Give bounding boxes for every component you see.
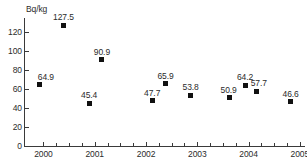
data-point-label: 90.9 xyxy=(84,47,120,57)
x-minor-tick-mark xyxy=(184,143,185,146)
data-point-label: 53.8 xyxy=(173,82,209,92)
data-point-marker xyxy=(163,81,168,86)
x-minor-tick-mark xyxy=(133,143,134,146)
x-tick-label: 2005 xyxy=(280,149,307,159)
data-point-marker xyxy=(188,93,193,98)
x-tick-mark xyxy=(249,142,250,146)
data-point-label: 64.9 xyxy=(28,72,64,82)
x-minor-tick-mark xyxy=(69,143,70,146)
x-minor-tick-mark xyxy=(159,143,160,146)
x-axis-line xyxy=(24,146,305,147)
x-minor-tick-mark xyxy=(108,143,109,146)
y-tick-label: 0 xyxy=(17,141,22,151)
data-point-marker xyxy=(99,57,104,62)
x-tick-label: 2004 xyxy=(229,149,269,159)
y-tick-mark xyxy=(25,89,29,90)
y-tick-mark xyxy=(25,127,29,128)
x-tick-label: 2001 xyxy=(75,149,115,159)
x-minor-tick-mark xyxy=(82,143,83,146)
x-tick-mark xyxy=(197,142,198,146)
y-tick-label: 20 xyxy=(13,122,22,132)
y-tick-label: 80 xyxy=(13,65,22,75)
x-minor-tick-mark xyxy=(56,143,57,146)
y-tick-label: 60 xyxy=(13,84,22,94)
x-tick-mark xyxy=(95,142,96,146)
data-point-marker xyxy=(150,98,155,103)
x-minor-tick-mark xyxy=(120,143,121,146)
data-point-label: 127.5 xyxy=(45,12,81,22)
y-tick-mark xyxy=(25,108,29,109)
x-tick-mark xyxy=(146,142,147,146)
x-minor-tick-mark xyxy=(236,143,237,146)
x-tick-mark xyxy=(43,142,44,146)
scatter-chart: Bq/kg 020406080100120 200020012002200320… xyxy=(0,0,307,165)
x-minor-tick-mark xyxy=(261,143,262,146)
x-minor-tick-mark xyxy=(210,143,211,146)
data-point-marker xyxy=(227,95,232,100)
data-point-label: 46.6 xyxy=(273,89,307,99)
y-tick-label: 120 xyxy=(8,27,22,37)
y-tick-label: 100 xyxy=(8,46,22,56)
y-axis-title: Bq/kg xyxy=(26,4,47,14)
x-minor-tick-mark xyxy=(223,143,224,146)
y-tick-label: 40 xyxy=(13,103,22,113)
x-minor-tick-mark xyxy=(287,143,288,146)
x-minor-tick-mark xyxy=(274,143,275,146)
data-point-label: 45.4 xyxy=(71,90,107,100)
data-point-marker xyxy=(288,99,293,104)
y-tick-mark xyxy=(25,32,29,33)
y-tick-mark xyxy=(25,146,29,147)
x-tick-label: 2002 xyxy=(126,149,166,159)
data-point-label: 65.9 xyxy=(148,71,184,81)
data-point-marker xyxy=(254,89,259,94)
data-point-marker xyxy=(61,23,66,28)
data-point-label: 47.7 xyxy=(134,88,170,98)
y-tick-mark xyxy=(25,51,29,52)
x-tick-label: 2003 xyxy=(177,149,217,159)
data-point-marker xyxy=(37,82,42,87)
x-tick-label: 2000 xyxy=(23,149,63,159)
data-point-label: 57.7 xyxy=(241,78,277,88)
data-point-marker xyxy=(87,101,92,106)
x-minor-tick-mark xyxy=(172,143,173,146)
x-tick-mark xyxy=(300,142,301,146)
